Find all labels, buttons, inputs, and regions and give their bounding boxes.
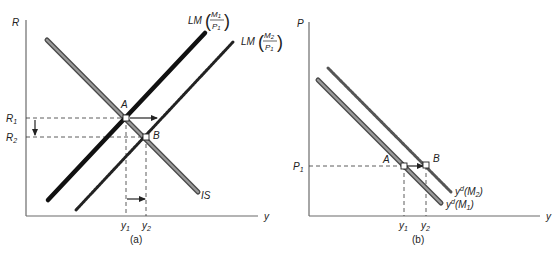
panel-b-caption: (b)	[412, 234, 424, 245]
lm1-label: LM ( M1 P1 )	[188, 10, 230, 31]
panel-a-x-axis-label: y	[263, 211, 270, 222]
y2-label-a: y2	[141, 220, 151, 232]
is-label: IS	[201, 190, 211, 201]
panel-a-y-axis-label: R	[12, 17, 19, 28]
svg-text:): )	[277, 32, 283, 52]
y2-label-b: y2	[420, 220, 430, 232]
point-b-label: B	[153, 130, 160, 141]
svg-text:M2: M2	[264, 31, 275, 40]
point-b-marker	[143, 134, 149, 140]
lm2-curve	[76, 42, 233, 210]
lm2-label: LM ( M2 P1 )	[241, 31, 283, 52]
point-b-marker-b	[423, 162, 429, 168]
svg-text:): )	[224, 11, 230, 31]
point-b-label-b: B	[433, 153, 440, 164]
yd-m1-curve-inner	[318, 80, 441, 203]
p1-label: P1	[293, 161, 304, 173]
svg-text:M1: M1	[211, 10, 221, 19]
panel-a-caption: (a)	[130, 234, 142, 245]
point-a-marker	[123, 115, 129, 121]
panel-b-y-axis-label: P	[297, 18, 304, 29]
point-a-label-b: A	[382, 154, 390, 165]
yd-m2-curve	[328, 68, 451, 192]
yd-m2-label: yd(M2)	[454, 185, 483, 198]
svg-text:P1: P1	[265, 43, 274, 52]
svg-text:LM: LM	[241, 36, 256, 47]
panel-a: R y A B R1 R2 y1 y2 IS LM ( M1	[6, 10, 283, 245]
y1-label-b: y1	[398, 220, 408, 232]
r1-label: R1	[6, 113, 17, 125]
yd-m1-label: yd(M1)	[445, 198, 474, 211]
svg-text:LM: LM	[188, 15, 203, 26]
panel-b: P y A B P1 y1 y2 yd(M2) yd(M1) (b)	[293, 18, 552, 245]
panel-b-x-axis-label: y	[545, 211, 552, 222]
point-a-label: A	[120, 99, 128, 110]
r2-label: R2	[6, 132, 17, 144]
svg-text:P1: P1	[212, 22, 221, 31]
y1-label-a: y1	[120, 220, 130, 232]
is-lm-ad-diagram: R y A B R1 R2 y1 y2 IS LM ( M1	[0, 0, 559, 253]
point-a-marker-b	[401, 163, 407, 169]
